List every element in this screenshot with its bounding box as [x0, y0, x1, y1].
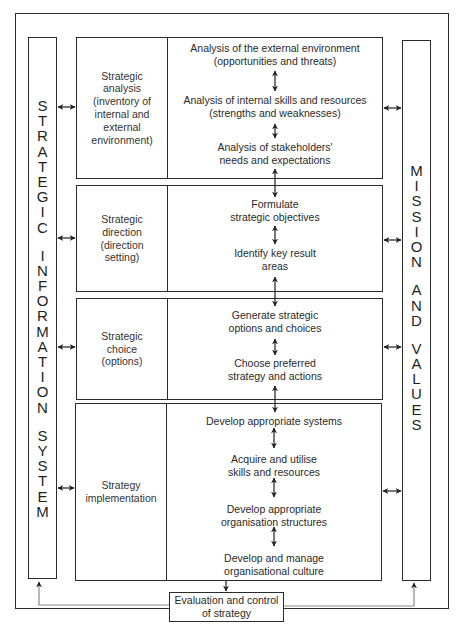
- mission-and-values-column: M I S S I O N A N D V A L U E S: [402, 40, 431, 581]
- letter: O: [37, 293, 49, 308]
- label-line: Strategic: [91, 70, 152, 83]
- letter: I: [40, 248, 44, 263]
- letter: I: [414, 178, 418, 193]
- letter: E: [37, 489, 47, 504]
- stage-label: Strategic analysis (inventory of interna…: [77, 38, 168, 178]
- label-line: implementation: [85, 492, 156, 505]
- letter: T: [38, 113, 47, 128]
- letter: F: [38, 278, 47, 293]
- letter: N: [411, 254, 422, 269]
- label-line: Strategic: [100, 213, 143, 226]
- step-choose-strategy: Choose preferred strategy and actions: [168, 357, 382, 382]
- letter: S: [411, 193, 421, 208]
- step-external-environment: Analysis of the external environment (op…: [168, 42, 382, 67]
- label-line: (options): [101, 355, 142, 368]
- letter: T: [38, 354, 47, 369]
- letter: A: [411, 356, 421, 371]
- letter: S: [37, 98, 47, 113]
- step-generate-options: Generate strategic options and choices: [168, 309, 382, 334]
- letter: E: [37, 174, 47, 189]
- letter: C: [37, 220, 48, 235]
- evaluation-and-control-box: Evaluation and control of strategy: [169, 592, 284, 622]
- label-line: (inventory of: [91, 95, 152, 108]
- stage-label: Strategic choice (options): [77, 299, 168, 399]
- strategic-information-system-label: S T R A T E G I C I N F O R M A T I O N …: [29, 98, 56, 519]
- letter: R: [37, 308, 48, 323]
- label-line: (direction: [100, 239, 143, 252]
- letter: M: [36, 504, 49, 519]
- letter: D: [411, 313, 422, 328]
- label-line: Strategic: [101, 330, 142, 343]
- stage-label: Strategy implementation: [76, 404, 167, 580]
- letter: T: [38, 473, 47, 488]
- letter: I: [40, 369, 44, 384]
- letter: N: [37, 263, 48, 278]
- label-line: setting): [100, 251, 143, 264]
- stage-strategy-implementation: Strategy implementation Develop appropri…: [75, 403, 382, 581]
- step-organisational-culture: Develop and manage organisational cultur…: [167, 552, 381, 577]
- label-line: environment): [91, 134, 152, 147]
- mission-and-values-label: M I S S I O N A N D V A L U E S: [403, 163, 430, 432]
- stage-strategic-direction: Strategic direction (direction setting) …: [76, 185, 383, 292]
- letter: U: [411, 386, 422, 401]
- stage-strategic-analysis: Strategic analysis (inventory of interna…: [76, 37, 383, 179]
- letter: I: [414, 224, 418, 239]
- evaluation-line: of strategy: [175, 607, 279, 620]
- letter: M: [410, 163, 423, 178]
- label-line: internal and: [91, 108, 152, 121]
- step-formulate-objectives: Formulate strategic objectives: [168, 198, 382, 223]
- letter: S: [37, 458, 47, 473]
- letter: A: [37, 144, 47, 159]
- label-line: Strategy: [85, 479, 156, 492]
- letter: O: [37, 384, 49, 399]
- letter: A: [411, 282, 421, 297]
- letter: R: [37, 128, 48, 143]
- label-line: choice: [101, 343, 142, 356]
- label-line: direction: [100, 226, 143, 239]
- strategic-information-system-column: S T R A T E G I C I N F O R M A T I O N …: [28, 37, 57, 579]
- step-organisation-structures: Develop appropriate organisation structu…: [167, 503, 381, 528]
- letter: E: [411, 402, 421, 417]
- letter: A: [37, 339, 47, 354]
- step-stakeholders: Analysis of stakeholders' needs and expe…: [168, 141, 382, 166]
- label-line: external: [91, 121, 152, 134]
- letter: S: [411, 417, 421, 432]
- letter: M: [36, 324, 49, 339]
- letter: I: [40, 204, 44, 219]
- letter: S: [411, 209, 421, 224]
- letter: S: [37, 428, 47, 443]
- letter: T: [38, 159, 47, 174]
- step-acquire-skills: Acquire and utilise skills and resources: [167, 453, 381, 478]
- step-internal-skills: Analysis of internal skills and resource…: [168, 94, 382, 119]
- evaluation-line: Evaluation and control: [175, 594, 279, 607]
- letter: N: [37, 400, 48, 415]
- letter: L: [412, 371, 420, 386]
- stage-label: Strategic direction (direction setting): [77, 186, 168, 291]
- letter: N: [411, 298, 422, 313]
- letter: O: [411, 239, 423, 254]
- letter: V: [411, 341, 421, 356]
- letter: G: [37, 189, 49, 204]
- step-develop-systems: Develop appropriate systems: [167, 415, 381, 428]
- stage-strategic-choice: Strategic choice (options) Generate stra…: [76, 298, 383, 400]
- letter: Y: [37, 443, 47, 458]
- label-line: analysis: [91, 82, 152, 95]
- step-key-result-areas: Identify key result areas: [168, 247, 382, 272]
